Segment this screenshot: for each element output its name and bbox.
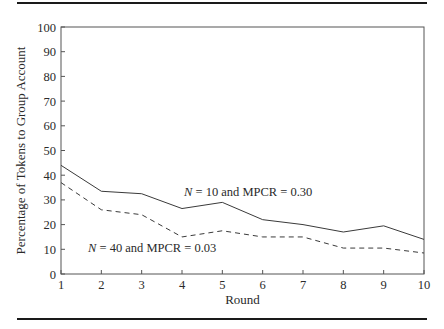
y-tick-label: 10 [44,243,57,257]
x-tick-label: 2 [98,278,104,292]
x-axis-ticks: 12345678910 [58,270,430,292]
y-tick-label: 0 [50,268,56,282]
x-tick-label: 3 [139,278,145,292]
y-tick-label: 70 [44,95,57,109]
series-lines [61,165,424,253]
bottom-rule [17,318,427,320]
x-tick-label: 6 [260,278,266,292]
x-tick-label: 8 [340,278,346,292]
annotation-series-1: N = 10 and MPCR = 0.30 [183,185,312,199]
x-tick-label: 1 [58,278,64,292]
y-tick-label: 60 [44,119,57,133]
truncated-caption [17,323,317,329]
annotation-series-2: N = 40 and MPCR = 0.03 [87,241,216,255]
series-line-1 [61,165,424,239]
x-tick-label: 10 [418,278,431,292]
y-tick-label: 20 [44,218,57,232]
x-axis-label: Round [225,292,260,307]
x-tick-label: 4 [179,278,186,292]
plot-frame [61,27,424,274]
y-axis-label: Percentage of Tokens to Group Account [13,46,28,254]
y-tick-label: 40 [44,169,57,183]
y-tick-label: 90 [44,45,57,59]
y-tick-label: 50 [44,144,57,158]
x-tick-label: 5 [219,278,225,292]
line-chart: 0102030405060708090100 12345678910 Perce… [0,0,444,329]
x-tick-label: 9 [381,278,387,292]
y-tick-label: 100 [37,21,56,35]
y-tick-label: 30 [44,193,57,207]
x-tick-label: 7 [300,278,306,292]
y-tick-label: 80 [44,70,57,84]
